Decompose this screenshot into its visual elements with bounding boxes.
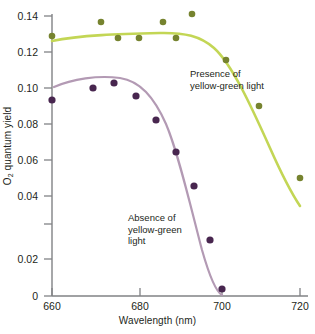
data-point [49, 33, 56, 40]
data-point [160, 19, 167, 26]
series-absence-yellow-green-light [48, 77, 225, 295]
data-point [48, 96, 55, 103]
x-tick-label-680: 680 [120, 300, 160, 312]
x-axis-title: Wavelength (nm) [0, 315, 315, 326]
data-point [218, 285, 225, 292]
data-point [189, 11, 196, 18]
data-point [98, 19, 105, 26]
y-tick-label-002: 0.02 [4, 253, 38, 265]
y-axis-title-text: O [2, 177, 13, 185]
annotation-absence: Absence of yellow-green light [128, 212, 200, 247]
x-tick-label-700: 700 [202, 300, 242, 312]
y-tick-label-012: 0.12 [4, 46, 38, 58]
x-tick-label-720: 720 [280, 300, 315, 312]
data-point [132, 92, 139, 99]
data-point [89, 84, 96, 91]
x-axis-ticks [52, 288, 300, 296]
data-point [115, 35, 122, 42]
x-tick-label-660: 660 [32, 300, 72, 312]
chart-plot-area [0, 0, 315, 334]
chart-figure: 0.14 0.12 0.10 0.08 0.06 0.04 0.02 0 660… [0, 0, 315, 334]
data-point [173, 35, 180, 42]
data-point [206, 236, 213, 243]
series-presence-yellow-green-light [49, 11, 304, 206]
data-point [297, 175, 304, 182]
annotation-presence: Presence of yellow-green light [190, 68, 270, 91]
data-point [256, 103, 263, 110]
y-axis-title-subscript: 2 [7, 173, 14, 177]
y-axis-title: O2 quantum yield [2, 66, 14, 226]
data-point [223, 57, 230, 64]
y-axis-ticks [44, 16, 52, 296]
data-point [136, 35, 143, 42]
green-trend-line [52, 33, 300, 206]
data-point [190, 182, 197, 189]
data-point [110, 79, 117, 86]
y-axis-title-rest: quantum yield [2, 107, 13, 173]
data-point [172, 148, 179, 155]
y-tick-label-014: 0.14 [4, 10, 38, 22]
data-point [152, 116, 159, 123]
axes [52, 14, 308, 296]
